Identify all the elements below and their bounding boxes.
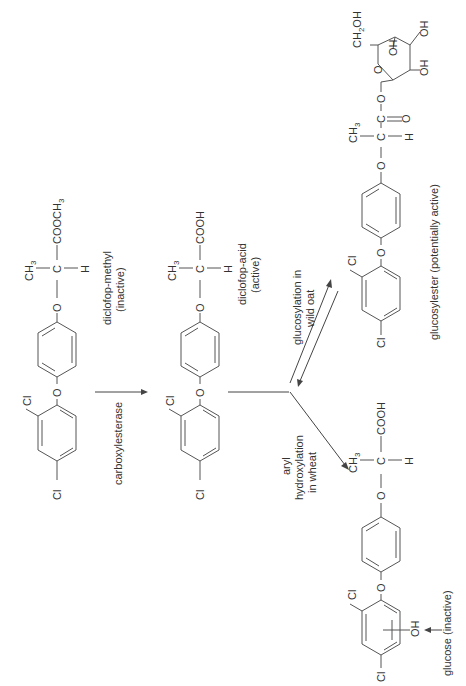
reaction-label: wild oat xyxy=(304,290,316,328)
oxygen-label: O xyxy=(51,388,63,397)
oxygen-label: O xyxy=(194,303,206,312)
oxygen-label: O xyxy=(194,388,206,397)
methyl-label: CH3 xyxy=(347,452,362,473)
hydroxyl-label: OH xyxy=(387,39,399,56)
compound-diclofop-methyl: Cl Cl O O C CH3 H COOCH3 diclofop-methyl… xyxy=(21,198,126,500)
carbonyl-carbon-label: C xyxy=(375,115,387,123)
ester-label: COOCH3 xyxy=(51,198,66,244)
hydroxyl-label: OH xyxy=(418,20,430,37)
carbon-label: C xyxy=(375,457,387,465)
cl-label: Cl xyxy=(375,672,387,682)
compound-name: diclofop-methyl xyxy=(101,251,113,325)
cl-label: Cl xyxy=(21,396,33,406)
methyl-label: CH3 xyxy=(347,122,362,143)
compound-glucosylester: Cl Cl O O C CH3 H C O O O CH2OH OH OH OH… xyxy=(346,11,440,348)
oxygen-label: O xyxy=(375,491,387,500)
methyl-label: CH3 xyxy=(23,260,38,281)
acid-label: COOH xyxy=(194,211,206,244)
compound-activity: (active) xyxy=(249,257,261,293)
arrowhead-icon xyxy=(424,627,431,633)
reaction-label: in wheat xyxy=(306,452,318,493)
reaction-label: hydroxylation xyxy=(293,435,305,500)
oxygen-label: O xyxy=(51,303,63,312)
compound-name: glucose (inactive) xyxy=(441,590,453,676)
carbon-label: C xyxy=(375,133,387,141)
compound-name: glucosylester (potentially active) xyxy=(428,184,440,340)
cl-label: Cl xyxy=(194,490,206,500)
cl-label: Cl xyxy=(164,396,176,406)
compound-aryl-hydroxylated: Cl Cl OH O O C CH3 H COOH glucose (inact… xyxy=(346,402,453,682)
arrowhead-icon xyxy=(326,279,332,288)
reaction-diagram: Cl Cl O O C CH3 H COOCH3 diclofop-methyl… xyxy=(0,0,466,686)
reaction-label: aryl xyxy=(280,457,292,475)
cl-label: Cl xyxy=(346,590,358,600)
oxygen-label: O xyxy=(375,248,387,257)
reaction-label: glucosylation in xyxy=(291,270,303,345)
hydroxyl-label: OH xyxy=(418,59,430,76)
methyl-label: CH3 xyxy=(166,260,181,281)
ester-oxygen-label: O xyxy=(375,94,387,103)
oxygen-label: O xyxy=(375,583,387,592)
ch2oh-label: CH2OH xyxy=(351,11,366,48)
hydroxyl-label: OH xyxy=(409,620,421,637)
cl-label: Cl xyxy=(51,490,63,500)
carbon-label: C xyxy=(194,265,206,273)
compound-name: diclofop-acid xyxy=(236,243,248,305)
reaction-carboxylesterase: carboxylesterase xyxy=(95,389,148,485)
carbon-label: C xyxy=(51,265,63,273)
cl-label: Cl xyxy=(346,256,358,266)
oxygen-label: O xyxy=(375,161,387,170)
carbonyl-oxygen-label: O xyxy=(400,114,412,123)
compound-diclofop-acid: Cl Cl O O C CH3 H COOH diclofop-acid (ac… xyxy=(164,211,261,500)
compound-activity: (inactive) xyxy=(114,267,126,312)
hydrogen-label: H xyxy=(79,265,91,273)
hydrogen-label: H xyxy=(403,133,415,141)
acid-label: COOH xyxy=(375,402,387,435)
arrowhead-icon xyxy=(141,389,148,395)
enzyme-label: carboxylesterase xyxy=(112,402,124,485)
ring-oxygen-label: O xyxy=(372,65,384,74)
cl-label: Cl xyxy=(375,338,387,348)
hydrogen-label: H xyxy=(222,265,234,273)
hydrogen-label: H xyxy=(403,457,415,465)
arrowhead-icon xyxy=(297,379,303,387)
